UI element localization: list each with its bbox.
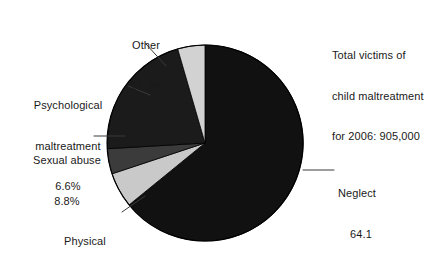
slice-label-sexual-abuse-value: 8.8% <box>8 195 126 209</box>
pie-chart-figure: Other 17.3% Psychological maltreatment 6… <box>0 0 448 261</box>
slice-label-physical-abuse: Physical abuse 16% <box>50 208 120 261</box>
slice-label-physical-abuse-name-line1: Physical <box>50 235 120 249</box>
slice-label-neglect: Neglect 64.1 <box>338 160 430 261</box>
slice-label-other-name: Other <box>108 39 184 53</box>
annotation-line-3: for 2006: 905,000 <box>332 130 448 144</box>
total-victims-annotation: Total victims of child maltreatment for … <box>332 22 448 171</box>
annotation-line-2: child maltreatment <box>332 90 448 104</box>
slice-label-neglect-value: 64.1 <box>338 228 384 242</box>
slice-label-sexual-abuse-name: Sexual abuse <box>8 154 126 168</box>
slice-label-psychological-name-line1: Psychological <box>10 99 126 113</box>
annotation-line-1: Total victims of <box>332 49 448 63</box>
slice-label-neglect-name: Neglect <box>338 187 430 201</box>
